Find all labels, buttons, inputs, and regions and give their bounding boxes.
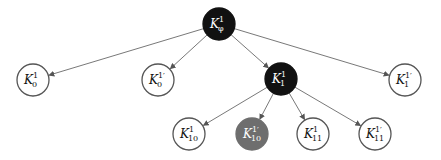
node-label-subscript: 11 <box>312 134 322 143</box>
node-label-superscript: 1 <box>219 15 224 24</box>
edge-k1-to-k10p <box>260 93 274 119</box>
node-k1: K11 <box>265 63 297 95</box>
node-label-subscript: 10 <box>251 134 261 143</box>
node-label: K11 <box>271 70 286 88</box>
edge-root-to-k1p <box>234 29 388 75</box>
node-label-subscript: 10 <box>188 134 198 143</box>
tree-diagram-svg: K1φK10K1′0K11K1′1K110K1′10K111K1′11 <box>0 0 441 160</box>
node-k0p: K1′0 <box>142 64 174 96</box>
node-label-superscript: 1 <box>33 71 38 80</box>
nodes-group: K1φK10K1′0K11K1′1K110K1′10K111K1′11 <box>17 8 421 150</box>
node-label-subscript: φ <box>218 24 224 33</box>
node-label: K1φ <box>209 15 224 33</box>
node-label: K10 <box>23 71 38 89</box>
edges-group <box>49 29 388 126</box>
edge-root-to-k0 <box>49 29 203 75</box>
node-k0: K10 <box>17 64 49 96</box>
edge-root-to-k1 <box>231 35 268 68</box>
node-label-superscript: 1′ <box>158 71 165 80</box>
node-label-superscript: 1′ <box>405 71 412 80</box>
tree-diagram: K1φK10K1′0K11K1′1K110K1′10K111K1′11 <box>0 0 441 160</box>
node-label: K1′10 <box>242 125 261 143</box>
node-label: K1′11 <box>365 125 384 143</box>
node-k10p: K1′10 <box>236 118 268 150</box>
node-k11p: K1′11 <box>359 118 391 150</box>
node-label-subscript: 1 <box>280 79 285 88</box>
node-label-subscript: 0 <box>157 80 162 89</box>
node-k1p: K1′1 <box>389 64 421 96</box>
node-label-superscript: 1 <box>313 125 318 134</box>
node-root: K1φ <box>203 8 235 40</box>
node-label-superscript: 1′ <box>375 125 382 134</box>
node-k10: K110 <box>173 118 205 150</box>
edge-k1-to-k11 <box>289 93 304 119</box>
node-k11: K111 <box>297 118 329 150</box>
node-label-subscript: 11 <box>374 134 384 143</box>
node-label-superscript: 1′ <box>252 125 259 134</box>
node-label-superscript: 1 <box>281 70 286 79</box>
node-label-subscript: 1 <box>404 80 409 89</box>
node-label-superscript: 1 <box>189 125 194 134</box>
node-label-subscript: 0 <box>32 80 37 89</box>
edge-root-to-k0p <box>171 35 208 69</box>
